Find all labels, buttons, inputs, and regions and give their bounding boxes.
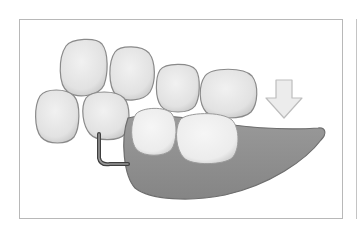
tooth-back-molar-2: [200, 69, 257, 118]
tooth-back-molar-1: [156, 64, 199, 112]
prosthetic-tooth-1: [132, 108, 176, 155]
denture-illustration: [0, 0, 359, 225]
tooth-abutment: [83, 92, 129, 140]
arrow-down-icon: [266, 80, 302, 118]
tooth-upper-middle: [110, 47, 155, 100]
tooth-upper-left: [60, 39, 107, 95]
prosthetic-tooth-2: [177, 114, 238, 164]
tooth-lower-left: [36, 90, 79, 143]
